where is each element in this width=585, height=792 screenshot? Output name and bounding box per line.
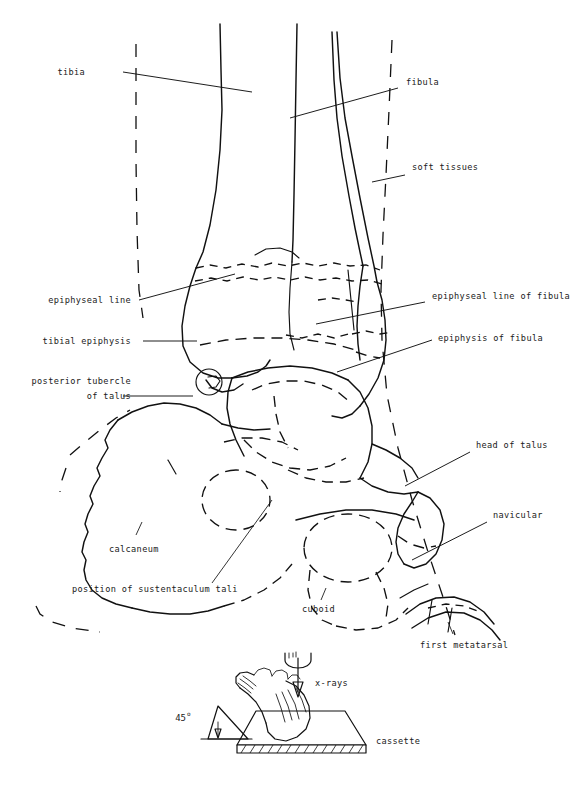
label-calcaneum: calcaneum: [109, 544, 159, 554]
leader-soft-tissues: [372, 175, 405, 182]
label-epiphyseal-line-of-fibula: epiphyseal line of fibula: [432, 291, 570, 301]
label-tibia: tibia: [57, 67, 85, 77]
calcaneum-inferior-contour: [132, 606, 224, 614]
leader-epiphyseal-line-of-fibula: [316, 302, 425, 324]
angle-vertical-arrow: [215, 722, 221, 738]
cassette-front-edge: [237, 745, 366, 753]
label-x-rays: x-rays: [315, 678, 348, 688]
tibia-shaft: [196, 24, 297, 268]
label-cuboid: cuboid: [302, 604, 335, 614]
calcaneum-hidden-facet-upper: [224, 438, 298, 450]
navicular-outline: [404, 492, 444, 568]
cuneiform-hidden-outline: [336, 608, 408, 630]
cuboid-outline: [304, 514, 392, 582]
talus-dome-superior: [232, 366, 348, 380]
talus-head-neck-superior: [372, 444, 418, 478]
label-position-of-sustentaculum-tali: position of sustentaculum tali: [72, 584, 238, 594]
figure-root: tibia fibula soft tissues epiphyseal lin…: [0, 0, 585, 792]
lateral-malleolus-tip: [332, 406, 360, 418]
tibial-epiphyseal-line-lower: [195, 277, 382, 284]
navicular-medial-border: [396, 492, 418, 564]
cassette-top-face: [237, 711, 366, 745]
leader-cuboid: [321, 588, 326, 600]
tibial-epiphysis-medial-contour: [182, 268, 232, 378]
posterior-tubercle-of-talus-outline: [196, 369, 222, 395]
talus-hidden-neck: [252, 381, 350, 402]
leader-head-of-talus: [405, 452, 470, 486]
talus: [196, 366, 418, 494]
label-soft-tissues: soft tissues: [412, 162, 478, 172]
soft-tissue-upper-heel-dashed: [70, 410, 130, 455]
label-angle-degree-symbol: o: [187, 710, 191, 717]
leader-lines: [123, 72, 487, 634]
sustentaculum-tali-outline: [202, 470, 270, 530]
ankle-oblique-diagram: tibia fibula soft tissues epiphyseal lin…: [0, 0, 585, 792]
xray-tube-collimator-marks: [289, 652, 296, 658]
foot-heel-contour: [236, 672, 254, 688]
talus-head-contour: [360, 478, 418, 494]
leader-sustentaculum-tali: [212, 500, 272, 583]
tibiofibular-hidden-margin: [318, 298, 358, 302]
calcaneum-anterior-superior: [222, 424, 270, 430]
tibial-epiphyseal-line-upper: [196, 263, 380, 270]
fibula-medial-cortex: [332, 32, 363, 266]
metatarsal-cross-mark-1: [428, 600, 432, 624]
angle-indicator: 45 o: [175, 706, 252, 739]
forefoot: [400, 584, 500, 640]
fibular-epiphysis: [332, 266, 386, 418]
leader-tibia: [123, 72, 252, 92]
calcaneum-sulcus-mark: [168, 460, 176, 474]
cassette: [237, 711, 366, 753]
midfoot-hidden-joint-line: [288, 470, 364, 482]
tibia-lateral-cortex: [292, 24, 297, 262]
talus-hidden-body-inferior: [244, 440, 346, 470]
calcaneum-posterior-wavy-contour: [82, 420, 132, 608]
label-navicular: navicular: [493, 510, 543, 520]
label-epiphysis-of-fibula: epiphysis of fibula: [438, 333, 543, 343]
label-angle-value: 45: [175, 713, 186, 723]
tibia-medial-cortex: [196, 24, 222, 268]
medial-malleolus-tip: [206, 380, 243, 392]
tibial-epiphysis: [182, 248, 356, 392]
label-cassette: cassette: [376, 736, 420, 746]
soft-tissue-medial-dashed: [136, 44, 143, 318]
leader-navicular: [412, 522, 487, 560]
toes-outline: [254, 668, 300, 679]
fibular-epiphysis-lateral-contour: [360, 282, 386, 406]
talus-hidden-lateral-process: [274, 396, 288, 448]
tibial-epiphysis-hidden-articular: [200, 338, 356, 350]
text-labels: tibia fibula soft tissues epiphyseal lin…: [32, 67, 571, 650]
leader-calcaneum: [136, 522, 142, 535]
label-head-of-talus: head of talus: [476, 440, 548, 450]
first-metatarsal-hidden-line: [428, 604, 480, 612]
soft-tissue-posterior-heel-dashed: [36, 606, 100, 632]
soft-tissue-left-margin-dashed: [60, 468, 66, 492]
fibula-shaft: [332, 32, 377, 282]
cuboid-lateral-extension: [376, 572, 388, 618]
calcaneum-superior-contour: [118, 403, 222, 424]
fibula-lateral-cortex: [337, 32, 377, 282]
label-epiphyseal-line: epiphyseal line: [48, 295, 131, 305]
label-posterior-tubercle-line2: of talus: [87, 391, 131, 401]
lateral-foot-contour: [400, 584, 428, 598]
label-posterior-tubercle-line1: posterior tubercle: [32, 376, 131, 386]
cuneiform-superior-edge: [296, 510, 414, 520]
label-first-metatarsal: first metatarsal: [420, 640, 508, 650]
angle-triangle: [208, 706, 248, 739]
leader-epiphysis-of-fibula: [337, 340, 432, 372]
positioning-inset: 45 o x-rays cassette: [175, 652, 420, 753]
label-fibula: fibula: [406, 77, 439, 87]
label-tibial-epiphysis: tibial epiphysis: [43, 336, 131, 346]
talar-dome-hidden-line: [286, 334, 348, 338]
navicular-hidden-body: [398, 536, 436, 548]
